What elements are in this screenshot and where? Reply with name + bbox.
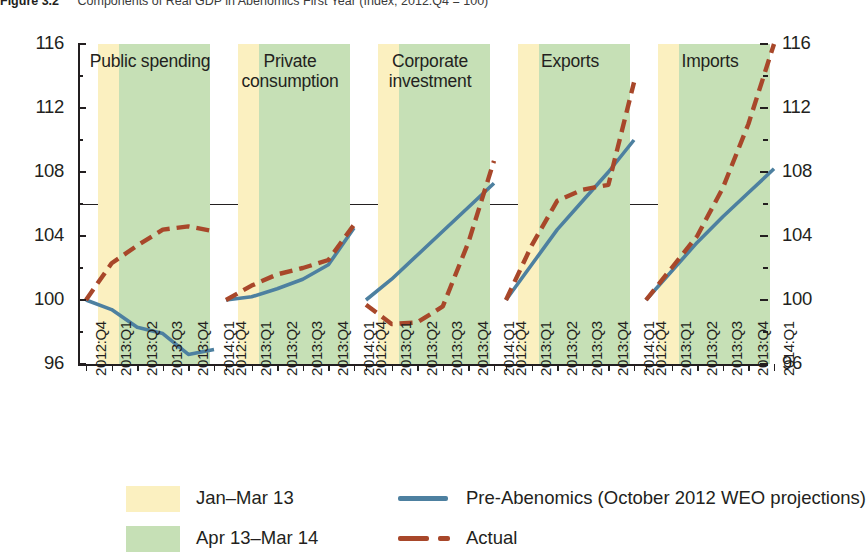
x-axis-label: 2013:Q3 xyxy=(448,321,465,376)
x-axis-label: 2013:Q1 xyxy=(677,321,694,376)
y-tick-minor xyxy=(763,139,768,140)
x-tick xyxy=(354,364,355,371)
x-tick xyxy=(646,364,647,371)
x-tick xyxy=(723,364,724,371)
y-tick-major xyxy=(760,235,768,236)
x-axis-label: 2013:Q4 xyxy=(614,321,631,376)
figure-number: Figure 3.2 xyxy=(0,0,59,8)
x-tick xyxy=(303,364,304,371)
figure-title: Components of Real GDP in Abenomics Firs… xyxy=(78,0,489,8)
y-axis-label-right: 100 xyxy=(782,290,812,309)
y-tick-major xyxy=(78,107,86,108)
y-tick-major xyxy=(760,299,768,300)
x-axis-label: 2013:Q2 xyxy=(563,321,580,376)
legend-dash-actual-2 xyxy=(438,536,450,541)
x-tick xyxy=(748,364,749,371)
x-tick xyxy=(583,364,584,371)
y-axis-label-left: 100 xyxy=(34,290,64,309)
y-tick-major xyxy=(78,235,86,236)
panel-series xyxy=(366,44,494,366)
y-tick-minor xyxy=(78,267,83,268)
legend-swatch-apr-mar xyxy=(126,526,180,552)
y-tick-minor xyxy=(78,139,83,140)
x-axis-label: 2013:Q3 xyxy=(728,321,745,376)
x-tick xyxy=(417,364,418,371)
x-tick xyxy=(137,364,138,371)
y-tick-minor xyxy=(763,75,768,76)
x-tick xyxy=(112,364,113,371)
legend: Jan–Mar 13 Apr 13–Mar 14 Pre-Abenomics (… xyxy=(0,484,845,560)
y-tick-minor xyxy=(763,203,768,204)
y-tick-major xyxy=(760,43,768,44)
figure-caption: Figure 3.2 Components of Real GDP in Abe… xyxy=(0,0,845,9)
series-actual xyxy=(506,82,634,300)
x-axis-label: 2013:Q3 xyxy=(588,321,605,376)
x-tick xyxy=(634,364,635,371)
y-axis-label-right: 112 xyxy=(782,98,811,117)
legend-label-jan-mar: Jan–Mar 13 xyxy=(196,487,294,509)
x-axis-label: 2013:Q4 xyxy=(474,321,491,376)
y-axis-label-left: 96 xyxy=(44,354,64,373)
panel-series xyxy=(506,44,634,366)
x-axis-label: 2012:Q4 xyxy=(92,321,109,376)
series-actual xyxy=(226,225,354,300)
x-axis-label: 2013:Q2 xyxy=(143,321,160,376)
x-tick xyxy=(468,364,469,371)
x-axis-label: 2013:Q1 xyxy=(117,321,134,376)
y-axis-label-right: 104 xyxy=(782,226,812,245)
y-axis-label-right: 96 xyxy=(782,354,802,373)
x-axis-label: 2012:Q4 xyxy=(232,321,249,376)
legend-label-pre-abenomics: Pre-Abenomics (October 2012 WEO projecti… xyxy=(466,487,866,509)
x-tick xyxy=(226,364,227,371)
series-pre-abenomics xyxy=(646,169,774,300)
legend-line-pre-abenomics xyxy=(398,496,448,501)
x-axis-label: 2013:Q2 xyxy=(703,321,720,376)
y-tick-major xyxy=(78,43,86,44)
x-tick xyxy=(366,364,367,371)
plot-area: Public spending2012:Q42013:Q12013:Q22013… xyxy=(78,44,768,366)
legend-label-actual: Actual xyxy=(466,527,517,549)
x-tick xyxy=(494,364,495,371)
y-tick-major xyxy=(78,363,86,364)
x-axis-label: 2013:Q3 xyxy=(308,321,325,376)
x-tick xyxy=(608,364,609,371)
x-tick xyxy=(443,364,444,371)
legend-label-apr-mar: Apr 13–Mar 14 xyxy=(196,527,318,549)
panel-exports: Exports2012:Q42013:Q12013:Q22013:Q32013:… xyxy=(506,44,634,366)
x-axis-label: 2013:Q4 xyxy=(334,321,351,376)
series-actual xyxy=(646,44,774,300)
x-axis-label: 2013:Q2 xyxy=(283,321,300,376)
series-pre-abenomics xyxy=(366,183,494,300)
y-tick-major xyxy=(78,171,86,172)
y-tick-minor xyxy=(78,331,83,332)
y-tick-major xyxy=(760,363,768,364)
x-tick xyxy=(774,364,775,371)
x-axis-label: 2013:Q1 xyxy=(537,321,554,376)
y-tick-major xyxy=(760,107,768,108)
x-axis-label: 2013:Q1 xyxy=(257,321,274,376)
x-tick xyxy=(697,364,698,371)
panel-series xyxy=(86,44,214,366)
x-tick xyxy=(163,364,164,371)
y-axis-label-right: 108 xyxy=(782,162,812,181)
panel-series xyxy=(646,44,774,366)
x-axis-label: 2013:Q3 xyxy=(168,321,185,376)
panel-public-spending: Public spending2012:Q42013:Q12013:Q22013… xyxy=(86,44,214,366)
panel-series xyxy=(226,44,354,366)
legend-swatch-jan-mar xyxy=(126,486,180,512)
series-actual xyxy=(86,226,214,300)
y-axis-label-left: 112 xyxy=(35,98,64,117)
x-tick xyxy=(672,364,673,371)
x-axis-label: 2012:Q4 xyxy=(372,321,389,376)
x-axis-label: 2013:Q4 xyxy=(754,321,771,376)
x-tick xyxy=(328,364,329,371)
x-tick xyxy=(532,364,533,371)
panel-corporate-investment: Corporate investment2012:Q42013:Q12013:Q… xyxy=(366,44,494,366)
x-tick xyxy=(392,364,393,371)
x-tick xyxy=(506,364,507,371)
x-tick xyxy=(557,364,558,371)
panel-imports: Imports2012:Q42013:Q12013:Q22013:Q32013:… xyxy=(646,44,774,366)
y-tick-minor xyxy=(78,75,83,76)
x-axis-label: 2013:Q4 xyxy=(194,321,211,376)
